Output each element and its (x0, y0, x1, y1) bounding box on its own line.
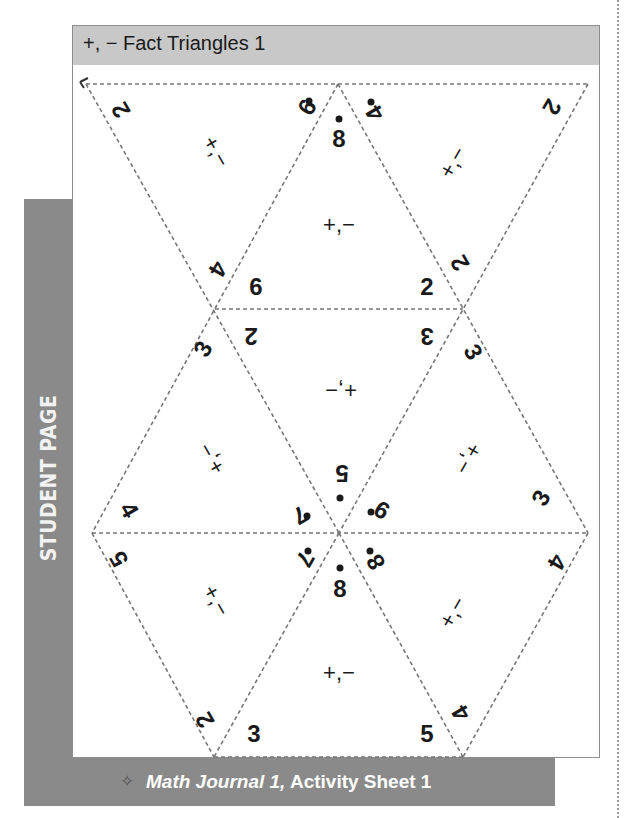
dot-marker (305, 548, 312, 555)
triangle-number: 8 (333, 575, 346, 602)
triangle-number: 5 (104, 547, 134, 572)
fact-triangle-8[interactable]: 8 3 5 +,− (247, 565, 433, 748)
triangle-number: 3 (420, 323, 433, 350)
operation-label: +,− (434, 592, 472, 632)
triangle-number: 4 (359, 100, 389, 126)
fact-triangle-4[interactable]: 2 3 5 +,− (244, 323, 433, 502)
triangle-number: 3 (188, 336, 218, 361)
dot-marker (337, 565, 344, 572)
dot-marker (368, 509, 375, 516)
operation-label: +,− (450, 439, 488, 479)
dot-marker (336, 116, 343, 123)
operation-label: +,− (323, 212, 355, 237)
triangle-number: 6 (249, 273, 262, 300)
fact-triangle-9[interactable]: 8 4 4 +,− (361, 548, 573, 726)
dot-marker (337, 495, 344, 502)
triangle-number: 4 (203, 257, 233, 283)
dot-marker (368, 99, 375, 106)
triangle-number: 8 (361, 550, 391, 575)
dot-marker (304, 513, 311, 520)
triangle-number: 3 (458, 339, 488, 364)
triangle-number: 3 (526, 485, 556, 510)
operation-label: +,− (193, 439, 231, 479)
fact-triangle-1[interactable]: 2 9 4 +,− (106, 95, 323, 283)
triangle-number: 2 (420, 273, 433, 300)
triangle-number: 3 (247, 720, 260, 747)
triangle-number: 4 (542, 550, 572, 576)
operation-label: +,− (198, 580, 236, 620)
operation-label: +,− (434, 142, 472, 182)
fact-triangle-3[interactable]: 4 2 2 +,− (359, 95, 567, 276)
dot-marker (306, 98, 313, 105)
triangle-number: 2 (244, 323, 257, 350)
triangle-number: 2 (106, 98, 136, 123)
triangle-number: 2 (537, 95, 567, 120)
dot-marker (367, 548, 374, 555)
operation-label: +,− (323, 660, 355, 685)
triangle-number: 8 (332, 125, 345, 152)
triangle-number: 5 (420, 720, 433, 747)
triangle-number: 4 (114, 497, 144, 523)
fact-triangle-7[interactable]: 5 7 2 +,− (104, 547, 321, 733)
triangle-number: 4 (445, 700, 475, 726)
fact-triangles-grid: 2 9 4 +,− 8 6 2 +,− 4 2 2 +,− 2 3 5 +,− … (0, 0, 630, 818)
fact-triangle-6[interactable]: 3 9 3 +,− (368, 339, 556, 525)
operation-label: +,− (198, 131, 236, 171)
triangle-number: 2 (445, 251, 475, 276)
triangle-number: 5 (335, 460, 348, 487)
operation-label: +,− (325, 378, 357, 403)
cut-lines (86, 84, 588, 757)
triangle-number: 2 (190, 708, 220, 733)
